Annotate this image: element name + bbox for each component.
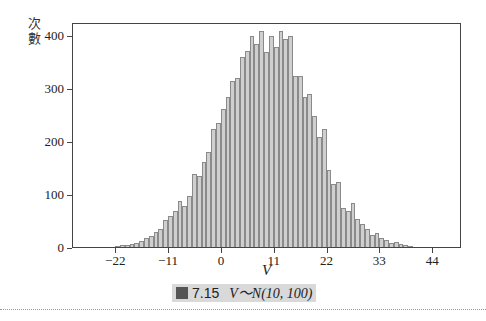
x-tick-label: 0	[201, 253, 241, 269]
y-tick-label: 200	[34, 134, 64, 150]
x-tick-label: 22	[307, 253, 347, 269]
x-tick-label: −22	[95, 253, 135, 269]
x-tick-label: −11	[148, 253, 188, 269]
dotted-divider	[0, 309, 486, 310]
figure-caption: 7.15V～N(10, 100)	[172, 284, 316, 302]
figure-label-icon	[176, 287, 188, 299]
x-axis-label: V	[262, 262, 271, 279]
y-tick-label: 100	[34, 187, 64, 203]
distribution-label: V～N(10, 100)	[229, 286, 312, 301]
figure-number: 7.15	[192, 285, 219, 301]
x-tick-label: 33	[359, 253, 399, 269]
x-tick-label: 44	[412, 253, 452, 269]
y-tick-label: 400	[34, 28, 64, 44]
y-tick-label: 0	[34, 240, 64, 256]
y-tick-label: 300	[34, 81, 64, 97]
plot-frame	[72, 23, 461, 248]
y-tick-mark	[67, 248, 72, 249]
x-tick-label: 11	[254, 253, 294, 269]
